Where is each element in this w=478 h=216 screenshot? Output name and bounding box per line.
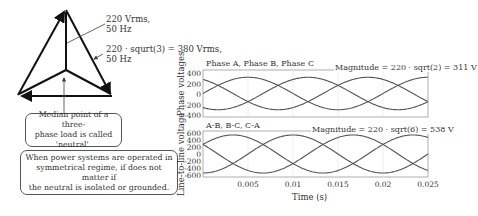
neutral-callout: Median point of a three- phase load is c… <box>25 113 122 147</box>
xtick: 0.02 <box>365 181 401 189</box>
curve-b-c <box>203 135 428 173</box>
line-plot-frame <box>203 131 428 177</box>
time-xlabel: Time (s) <box>292 192 327 202</box>
xtick: 0.025 <box>410 181 446 189</box>
curve-phase-a <box>203 77 428 109</box>
phase-chart-title: Phase A, Phase B, Phase C <box>206 59 314 68</box>
line-magnitude-annotation: Magnitude = 220 · sqrt(6) = 538 V <box>311 125 455 134</box>
xtick: 0.01 <box>275 181 311 189</box>
phase-voltage-label: 220 Vrms, 50 Hz <box>106 14 150 34</box>
line-voltage-label: 220 · squrt(3) = 380 Vrms, 50 Hz <box>106 44 222 64</box>
phase-magnitude-annotation: Magnitude = 220 · sqrt(2) = 311 V <box>334 63 478 72</box>
ytick: 200 <box>177 81 201 89</box>
xtick: 0.005 <box>230 181 266 189</box>
ytick: -200 <box>177 102 201 110</box>
ytick: -600 <box>177 172 201 180</box>
ytick: 0 <box>177 91 201 99</box>
star-phase-voltages <box>19 12 111 94</box>
line-chart-title: A-B, B-C, C-A <box>206 121 260 130</box>
ytick: 400 <box>177 70 201 78</box>
xtick: 0.015 <box>320 181 356 189</box>
symmetric-regime-callout: When power systems are operated in symme… <box>20 150 178 195</box>
